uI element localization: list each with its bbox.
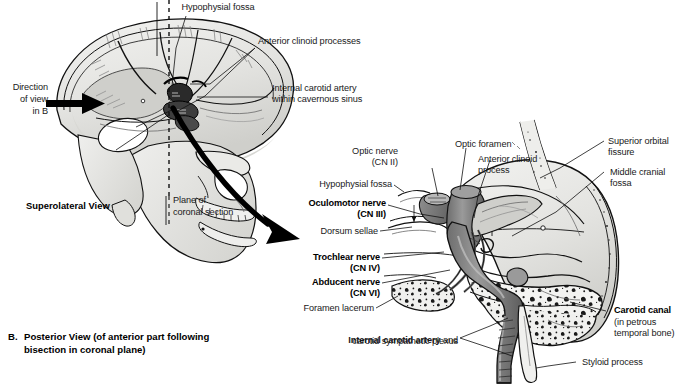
label-superior-orbital-fissure-line1: Superior orbital: [608, 136, 669, 147]
label-optic-foramen: Optic foramen: [455, 139, 511, 150]
optic-nerve-structure: [419, 193, 455, 224]
panel-b-caption-letter: B.: [8, 331, 18, 344]
label-abducent-nerve-line2: (CN VI): [246, 288, 380, 299]
label-internal-carotid-artery-b-line2: carotid sympathetic plexus: [300, 336, 458, 347]
label-dorsum-sellae: Dorsum sellae: [246, 226, 378, 237]
label-trochlear-nerve-line2: (CN IV): [246, 263, 380, 274]
label-direction-of-view-line2: of view: [0, 94, 48, 105]
panel-a-view-name: Superolateral View: [26, 200, 110, 211]
label-plane-of-coronal-section-line2: coronal section: [173, 207, 233, 218]
label-carotid-canal-line2: (in petrous: [614, 317, 656, 328]
label-middle-cranial-fossa-line2: fossa: [610, 178, 631, 189]
cranial-nerve-bundle: [436, 230, 484, 294]
label-anterior-clinoid-process-b-line2: process: [478, 165, 509, 176]
label-abducent-nerve-line1: Abducent nerve: [246, 277, 380, 288]
label-anterior-clinoid-process-b-line1: Anterior clinoid: [478, 154, 537, 165]
internal-carotid-artery-structure: [447, 222, 523, 383]
anterior-clinoid-process-structure: [472, 195, 542, 236]
panel-a-leader-lines: [116, 16, 268, 150]
label-superior-orbital-fissure-line2: fissure: [608, 147, 634, 158]
optic-canal-structure: [447, 186, 486, 255]
direction-of-view-arrow: [46, 93, 105, 114]
label-direction-of-view-line1: Direction: [0, 82, 48, 93]
panel-b-caption-line2: bisection in coronal plane): [24, 344, 146, 357]
label-oculomotor-nerve-line2: (CN III): [246, 209, 386, 220]
label-optic-nerve-line2: (CN II): [288, 157, 398, 168]
label-styloid-process: Styloid process: [582, 357, 643, 368]
panel-b-caption-line1: Posterior View (of anterior part followi…: [24, 331, 209, 344]
label-optic-nerve-line1: Optic nerve: [288, 146, 398, 157]
label-hypophysial-fossa-a: Hypophysial fossa: [148, 2, 288, 13]
label-foramen-lacerum: Foramen lacerum: [246, 303, 374, 314]
anatomy-figure: Hypophysial fossa Anterior clinoid proce…: [0, 0, 681, 386]
label-carotid-canal-line3: temporal bone): [614, 328, 674, 339]
label-anterior-clinoid-processes-a: Anterior clinoid processes: [258, 36, 361, 47]
label-hypophysial-fossa-b: Hypophysial fossa: [246, 179, 392, 190]
transition-arrow: [173, 108, 300, 244]
label-plane-of-coronal-section-line1: Plane of: [173, 195, 206, 206]
label-internal-carotid-artery-a-line2: within cavernous sinus: [272, 94, 362, 105]
label-oculomotor-nerve-line1: Oculomotor nerve: [246, 198, 386, 209]
label-direction-of-view-line3: in B: [0, 106, 48, 117]
styloid-process-structure: [518, 306, 537, 382]
label-internal-carotid-artery-a-line1: Internal carotid artery: [272, 83, 357, 94]
label-middle-cranial-fossa-line1: Middle cranial: [610, 167, 665, 178]
label-trochlear-nerve-line1: Trochlear nerve: [246, 252, 380, 263]
label-carotid-canal-line1: Carotid canal: [614, 305, 671, 316]
